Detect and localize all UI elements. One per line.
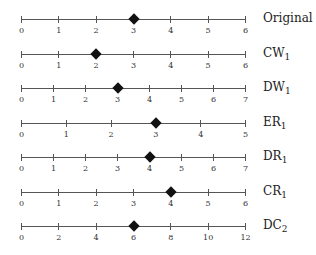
series-label-base: CW bbox=[263, 46, 285, 60]
tick-label: 1 bbox=[51, 95, 56, 104]
tick-mark bbox=[208, 51, 209, 58]
series-label: CW1 bbox=[263, 46, 290, 62]
tick-label: 4 bbox=[168, 26, 173, 35]
tick-label: 3 bbox=[115, 164, 120, 173]
series-label-base: CR bbox=[263, 184, 281, 198]
tick-mark bbox=[21, 154, 22, 161]
series-label-subscript: 1 bbox=[285, 52, 291, 62]
tick-mark bbox=[53, 85, 54, 92]
tick-mark bbox=[53, 154, 54, 161]
tick-mark bbox=[245, 16, 246, 23]
tick-mark bbox=[170, 51, 171, 58]
tick-mark bbox=[208, 16, 209, 23]
tick-label: 6 bbox=[243, 199, 248, 208]
tick-mark bbox=[133, 51, 134, 58]
tick-mark bbox=[170, 16, 171, 23]
tick-label: 1 bbox=[56, 199, 61, 208]
tick-mark bbox=[21, 51, 22, 58]
tick-mark bbox=[21, 223, 22, 230]
tick-mark bbox=[117, 154, 118, 161]
series-label-base: DR bbox=[263, 149, 282, 163]
tick-mark bbox=[96, 223, 97, 230]
tick-label: 3 bbox=[153, 130, 158, 139]
tick-label: 0 bbox=[19, 26, 24, 35]
tick-mark bbox=[181, 85, 182, 92]
tick-label: 2 bbox=[83, 164, 88, 173]
series-label-subscript: 1 bbox=[281, 121, 287, 131]
tick-mark bbox=[66, 120, 67, 127]
tick-mark bbox=[149, 85, 150, 92]
tick-mark bbox=[200, 120, 201, 127]
series-label-base: DW bbox=[263, 80, 285, 94]
tick-mark bbox=[208, 223, 209, 230]
series-label: DR1 bbox=[263, 149, 287, 165]
tick-label: 1 bbox=[56, 61, 61, 70]
tick-label: 2 bbox=[94, 26, 99, 35]
series-label: Original bbox=[263, 11, 313, 25]
series-label-subscript: 1 bbox=[282, 155, 288, 165]
tick-label: 5 bbox=[179, 95, 184, 104]
tick-mark bbox=[245, 189, 246, 196]
series-label: CR1 bbox=[263, 184, 287, 200]
tick-label: 4 bbox=[147, 95, 152, 104]
tick-mark bbox=[245, 223, 246, 230]
tick-label: 6 bbox=[131, 233, 136, 242]
series-label-subscript: 2 bbox=[282, 224, 288, 234]
tick-label: 1 bbox=[51, 164, 56, 173]
series-label-base: Original bbox=[263, 11, 313, 25]
tick-label: 6 bbox=[243, 61, 248, 70]
series-label-base: ER bbox=[263, 115, 281, 129]
diamond-marker-icon bbox=[128, 13, 139, 24]
tick-mark bbox=[21, 189, 22, 196]
tick-label: 6 bbox=[243, 26, 248, 35]
tick-label: 2 bbox=[94, 61, 99, 70]
tick-mark bbox=[85, 85, 86, 92]
tick-label: 0 bbox=[19, 233, 24, 242]
series-label-base: DC bbox=[263, 218, 282, 232]
tick-label: 0 bbox=[19, 164, 24, 173]
tick-label: 10 bbox=[203, 233, 213, 242]
tick-label: 4 bbox=[94, 233, 99, 242]
tick-mark bbox=[96, 16, 97, 23]
tick-mark bbox=[21, 120, 22, 127]
tick-mark bbox=[208, 189, 209, 196]
tick-mark bbox=[181, 154, 182, 161]
tick-label: 0 bbox=[19, 61, 24, 70]
tick-mark bbox=[213, 154, 214, 161]
tick-label: 7 bbox=[243, 95, 248, 104]
tick-label: 4 bbox=[168, 61, 173, 70]
tick-mark bbox=[58, 51, 59, 58]
tick-label: 5 bbox=[243, 130, 248, 139]
tick-mark bbox=[58, 223, 59, 230]
axis-line bbox=[21, 88, 245, 89]
tick-label: 5 bbox=[206, 61, 211, 70]
tick-label: 4 bbox=[147, 164, 152, 173]
tick-label: 3 bbox=[131, 26, 136, 35]
tick-label: 3 bbox=[131, 199, 136, 208]
tick-mark bbox=[245, 51, 246, 58]
tick-label: 0 bbox=[19, 130, 24, 139]
tick-label: 7 bbox=[243, 164, 248, 173]
tick-label: 4 bbox=[198, 130, 203, 139]
tick-label: 4 bbox=[168, 199, 173, 208]
tick-label: 8 bbox=[168, 233, 173, 242]
series-label: DW1 bbox=[263, 80, 291, 96]
tick-mark bbox=[58, 189, 59, 196]
tick-mark bbox=[96, 189, 97, 196]
series-label-subscript: 1 bbox=[281, 190, 287, 200]
tick-label: 6 bbox=[211, 164, 216, 173]
tick-mark bbox=[133, 189, 134, 196]
tick-label: 6 bbox=[211, 95, 216, 104]
series-label: DC2 bbox=[263, 218, 288, 234]
tick-mark bbox=[245, 85, 246, 92]
tick-mark bbox=[245, 120, 246, 127]
tick-mark bbox=[21, 16, 22, 23]
tick-label: 2 bbox=[56, 233, 61, 242]
tick-label: 3 bbox=[115, 95, 120, 104]
tick-label: 3 bbox=[131, 61, 136, 70]
tick-label: 12 bbox=[240, 233, 250, 242]
tick-mark bbox=[58, 16, 59, 23]
tick-label: 2 bbox=[109, 130, 114, 139]
tick-label: 5 bbox=[179, 164, 184, 173]
axis-line bbox=[21, 157, 245, 158]
